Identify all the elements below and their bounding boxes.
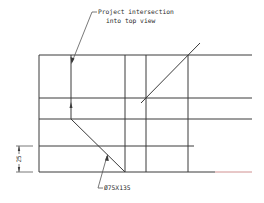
vertical-lines: [39, 55, 188, 172]
dimension-25: 25: [15, 146, 33, 172]
callout-label: Ø75X135: [104, 184, 131, 191]
technical-drawing: Project intersection into top view Ø75X1…: [0, 0, 264, 203]
top-note-line2: into top view: [106, 17, 155, 25]
dimension-label: 25: [15, 155, 22, 163]
dim-arrow-up-icon: [18, 146, 20, 151]
dim-arrow-down-icon: [18, 167, 20, 172]
top-note-line1: Project intersection: [98, 8, 174, 16]
top-leader: [71, 12, 98, 64]
callout-leader: [98, 154, 109, 188]
diagonal-lines: [71, 43, 200, 172]
projection-arrowhead-icon: [70, 102, 73, 108]
diagonal-upper: [141, 43, 200, 103]
